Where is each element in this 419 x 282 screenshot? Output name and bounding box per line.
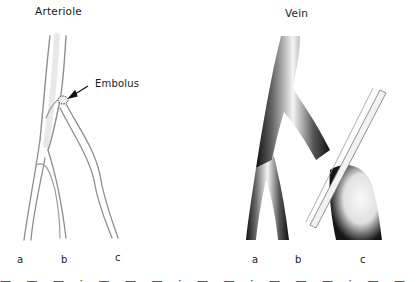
arteriole-vessels — [24, 36, 118, 240]
embolus-plug — [58, 96, 68, 104]
arteriole-label-a: a — [17, 254, 23, 265]
arteriole-label-c: c — [115, 252, 121, 263]
vein-label-c: c — [360, 254, 366, 265]
vein-label-b: b — [295, 254, 301, 265]
embolus-label: Embolus — [95, 78, 139, 89]
arteriole-label-b: b — [61, 254, 67, 265]
vein-label-a: a — [252, 254, 258, 265]
embolus-arrow — [69, 86, 88, 98]
vein-title: Vein — [285, 7, 308, 19]
caption-cutoff: — — — · — — — · — — · — — — · — — — · — … — [0, 274, 419, 282]
vein-vessels — [246, 36, 386, 240]
arteriole-title: Arteriole — [35, 5, 82, 17]
